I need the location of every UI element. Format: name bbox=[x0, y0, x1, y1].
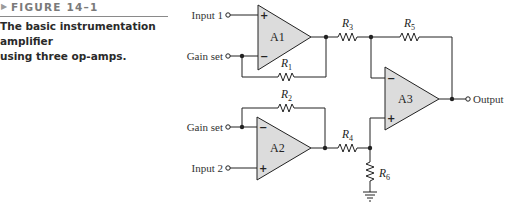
resistor-r1 bbox=[278, 73, 294, 81]
label-a2: A2 bbox=[270, 141, 285, 155]
label-a1: A1 bbox=[270, 30, 285, 44]
terminal-input-2: Input 2 bbox=[192, 162, 223, 174]
resistor-r6 bbox=[366, 162, 374, 181]
terminal-input-1: Input 1 bbox=[192, 9, 223, 21]
a3-minus-sign: − bbox=[387, 73, 395, 84]
resistor-r2 bbox=[278, 104, 294, 112]
label-r1: R1 bbox=[280, 57, 292, 72]
label-a3: A3 bbox=[398, 92, 413, 106]
label-r2: R2 bbox=[280, 88, 292, 103]
junction-dot bbox=[368, 146, 372, 150]
ground-icon bbox=[363, 192, 377, 201]
junction-dot bbox=[323, 146, 327, 150]
a1-plus-sign: + bbox=[260, 10, 268, 21]
instrumentation-amplifier-schematic: Input 1 Gain set Gain set Input 2 Output… bbox=[0, 0, 507, 203]
a1-minus-sign: − bbox=[260, 51, 268, 62]
resistor-r5 bbox=[400, 33, 419, 41]
junction-dot bbox=[369, 35, 373, 39]
terminal-gain-set-bottom: Gain set bbox=[187, 121, 223, 133]
a2-minus-sign: − bbox=[259, 122, 267, 133]
a3-plus-sign: + bbox=[387, 113, 395, 124]
junction-dot bbox=[450, 97, 454, 101]
a2-plus-sign: + bbox=[259, 163, 267, 174]
label-r3: R3 bbox=[341, 17, 353, 32]
resistor-r3 bbox=[338, 33, 357, 41]
terminal-gain-set-top: Gain set bbox=[187, 50, 223, 62]
label-r4: R4 bbox=[341, 128, 353, 143]
terminal-output: Output bbox=[473, 93, 504, 105]
label-r5: R5 bbox=[403, 17, 415, 32]
junction-dot bbox=[240, 125, 244, 129]
junction-dot bbox=[240, 54, 244, 58]
label-r6: R6 bbox=[378, 167, 390, 182]
junction-dot bbox=[324, 35, 328, 39]
resistor-r4 bbox=[338, 144, 357, 152]
